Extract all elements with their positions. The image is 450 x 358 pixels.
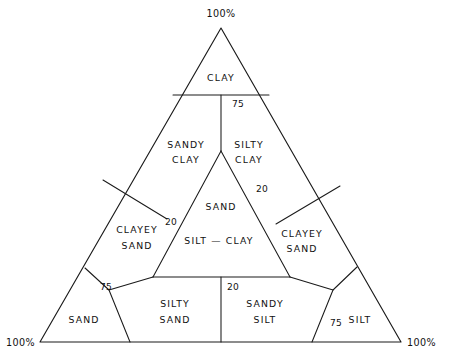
- region-label-silty-clay-line1: SILTY: [234, 139, 264, 150]
- region-label-silty-sand-line1: SILTY: [160, 298, 190, 309]
- region-label-clayey-sand-left-line2: SAND: [121, 240, 152, 251]
- corner-label-bottom-right: 100%: [407, 337, 436, 348]
- region-label-silt-clay-center: SILT — CLAY: [184, 235, 253, 246]
- region-label-silty-sand-line2: SAND: [159, 314, 190, 325]
- region-label-clay: CLAY: [207, 72, 235, 83]
- boundary-central-right: [221, 151, 290, 277]
- region-label-clayey-sand-right-line1: CLAYEY: [281, 228, 323, 239]
- region-label-sandy-clay-line1: SANDY: [167, 139, 204, 150]
- region-label-sandy-silt-line1: SANDY: [246, 298, 283, 309]
- corner-label-bottom-left: 100%: [6, 337, 35, 348]
- region-label-sand-center: SAND: [205, 201, 236, 212]
- tick-label-top-75: 75: [232, 99, 244, 109]
- boundary-clayeysand-right-bottom: [290, 267, 357, 290]
- region-label-sandy-silt-line2: SILT: [254, 314, 277, 325]
- region-label-sand-bottom-left: SAND: [68, 314, 99, 325]
- tick-label-bottom-left-75: 75: [100, 282, 112, 292]
- tick-label-bottom-center-20: 20: [227, 282, 239, 292]
- boundary-clayeysand-left-bottom: [85, 268, 153, 290]
- region-label-silt-bottom-right: SILT: [349, 314, 372, 325]
- corner-label-top: 100%: [206, 8, 235, 19]
- boundary-sandyclay-clayeysand: [103, 180, 167, 219]
- tick-label-left-20: 20: [165, 217, 177, 227]
- tick-label-bottom-right-75: 75: [330, 318, 342, 328]
- boundary-sand-siltysand: [109, 290, 130, 342]
- boundary-central-left: [153, 151, 221, 277]
- region-label-sandy-clay-line2: CLAY: [172, 154, 200, 165]
- ternary-diagram: 100% 100% 100% CLAY SANDY CLAY SILTY CLA…: [0, 0, 450, 358]
- region-label-clayey-sand-right-line2: SAND: [286, 243, 317, 254]
- region-label-silty-clay-line2: CLAY: [235, 154, 263, 165]
- tick-label-right-20: 20: [256, 184, 268, 194]
- boundary-sandysilt-silt: [312, 290, 333, 342]
- region-label-clayey-sand-left-line1: CLAYEY: [116, 224, 158, 235]
